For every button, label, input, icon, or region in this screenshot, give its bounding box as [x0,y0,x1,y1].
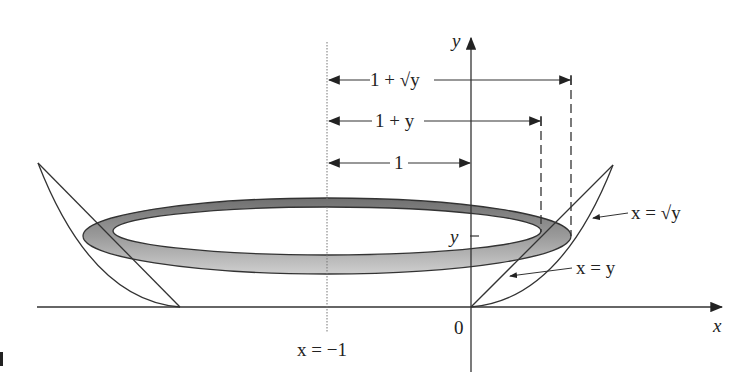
origin-label: 0 [454,318,464,337]
washer-ring [83,198,571,274]
y-axis-label: y [452,31,460,50]
outer-radius-label: 1 + √y [370,70,420,89]
x-axis-label: x [713,316,721,335]
reference-line-label: x = −1 [297,340,347,359]
inner-radius-label: 1 + y [375,111,414,130]
curve-sqrt-label: x = √y [631,203,681,222]
one-label: 1 [394,153,404,172]
curve-x-equals-y [471,165,613,307]
y-tick-label: y [450,227,458,246]
callout-line [510,268,572,276]
washer-diagram [0,0,731,392]
callout-sqrt [593,213,628,218]
curve-line-label: x = y [576,258,615,277]
mirror-line [38,163,180,307]
